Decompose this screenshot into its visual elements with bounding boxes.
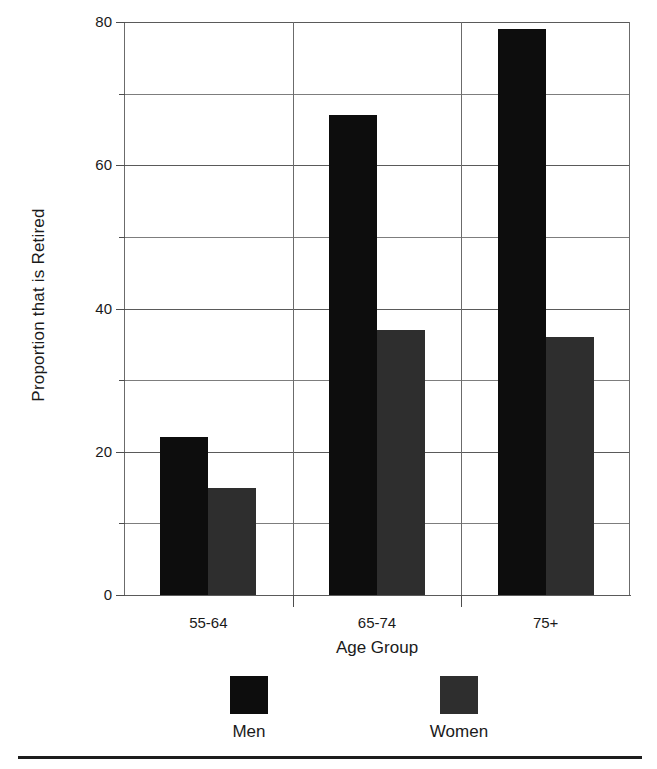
y-axis-tick-label: 60 (52, 157, 112, 172)
y-axis-tick-label: 80 (52, 14, 112, 29)
bar-men-75+ (498, 29, 546, 595)
x-axis-title: Age Group (124, 638, 630, 658)
y-axis-tick-labels: 020406080 (47, 0, 112, 769)
x-axis-line (124, 595, 631, 596)
plot-area (124, 22, 630, 595)
grid-line-major (124, 165, 630, 166)
plot-right-border (629, 22, 630, 595)
y-axis-minor-tick (119, 237, 125, 238)
y-axis-minor-tick (119, 523, 125, 524)
y-axis-minor-tick (119, 94, 125, 95)
chart-legend: MenWomen (124, 676, 630, 746)
y-axis-title: Proportion that is Retired (29, 165, 49, 445)
x-axis-category-label: 55-64 (123, 614, 293, 631)
y-axis-minor-tick (119, 380, 125, 381)
legend-swatch-women (440, 676, 478, 714)
legend-entry-women: Women (394, 676, 524, 742)
y-axis-tick-label: 20 (52, 444, 112, 459)
grid-line-major (124, 309, 630, 310)
x-axis-tick (461, 595, 462, 607)
legend-label-men: Men (184, 722, 314, 742)
y-axis-tick (116, 452, 125, 453)
legend-swatch-men (230, 676, 268, 714)
grid-line-major (124, 22, 630, 23)
bar-women-65-74 (377, 330, 425, 595)
group-separator-line (461, 22, 462, 595)
grid-line-minor (124, 94, 630, 95)
group-separator-line (293, 22, 294, 595)
y-axis-tick (116, 595, 125, 596)
bar-women-55-64 (208, 488, 256, 595)
bar-chart-figure: Proportion that is Retired 020406080 55-… (0, 0, 657, 769)
bar-men-65-74 (329, 115, 377, 595)
x-axis-category-label: 75+ (461, 614, 631, 631)
grid-line-minor (124, 237, 630, 238)
y-axis-tick-label: 0 (52, 587, 112, 602)
legend-label-women: Women (394, 722, 524, 742)
bar-women-75+ (546, 337, 594, 595)
bar-men-55-64 (160, 437, 208, 595)
y-axis-tick (116, 165, 125, 166)
x-axis-category-label: 65-74 (292, 614, 462, 631)
x-axis-tick (293, 595, 294, 607)
legend-entry-men: Men (184, 676, 314, 742)
y-axis-tick (116, 22, 125, 23)
y-axis-tick-label: 40 (52, 301, 112, 316)
bottom-divider-rule (18, 756, 642, 759)
y-axis-tick (116, 309, 125, 310)
